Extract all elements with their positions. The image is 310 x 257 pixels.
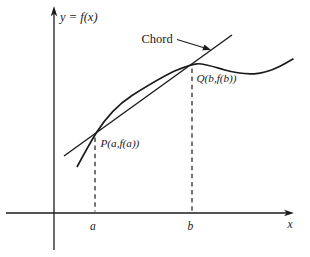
- point-q-label: Q(b,f(b)): [197, 72, 237, 85]
- chord-line: [64, 35, 232, 156]
- function-chord-diagram: y = f(x) Chord P(a,f(a)) Q(b,f(b)) a b x: [0, 0, 310, 257]
- diagram-canvas: y = f(x) Chord P(a,f(a)) Q(b,f(b)) a b x: [0, 0, 310, 257]
- point-p-label: P(a,f(a)): [100, 137, 140, 150]
- chord-callout: [177, 40, 211, 51]
- tick-b-label: b: [188, 220, 194, 232]
- function-curve: [77, 59, 294, 167]
- chord-label: Chord: [142, 32, 174, 46]
- tick-a-label: a: [90, 220, 96, 232]
- chord-callout-line: [177, 40, 204, 48]
- y-axis-label: y = f(x): [58, 10, 98, 24]
- x-axis-label: x: [287, 218, 294, 230]
- chord-callout-arrow-icon: [202, 45, 211, 51]
